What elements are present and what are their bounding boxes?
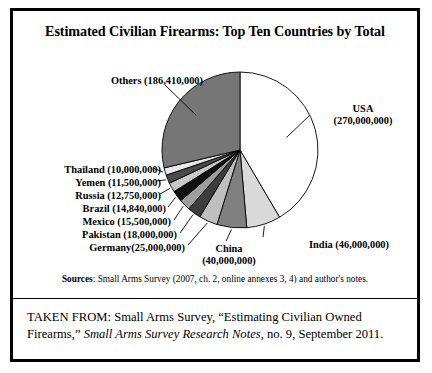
sources-label: Sources	[62, 274, 93, 284]
pie-label-brazil: Brazil (14,840,000)	[13, 203, 166, 215]
pie-label-yemen: Yemen (11,500,000)	[13, 177, 161, 189]
pie-label-china-line2: (40,000,000)	[202, 255, 256, 266]
pie-label-germany: Germany(25,000,000)	[13, 242, 185, 254]
sources-text: : Small Arms Survey (2007, ch. 2, online…	[93, 274, 368, 284]
pie-label-pakistan: Pakistan (18,000,000)	[13, 229, 177, 241]
pie-label-others: Others (186,410,000)	[23, 75, 203, 87]
leader-line-russia	[160, 188, 170, 194]
attribution-footer: TAKEN FROM: Small Arms Survey, “Estimati…	[13, 301, 417, 343]
pie-label-usa: USA (270,000,000)	[313, 103, 413, 126]
footer-publication-title: Small Arms Survey Research Notes	[84, 327, 261, 341]
pie-label-thailand: Thailand (10,000,000)	[13, 164, 161, 176]
pie-label-russia: Russia (12,750,000)	[13, 190, 161, 202]
pie-label-usa-line2: (270,000,000)	[334, 115, 393, 126]
footer-text-part2: , no. 9, September 2011.	[261, 327, 384, 341]
pie-label-mexico: Mexico (15,500,000)	[13, 216, 171, 228]
chart-panel: Estimated Civilian Firearms: Top Ten Cou…	[13, 11, 417, 299]
figure-container: Estimated Civilian Firearms: Top Ten Cou…	[10, 8, 420, 362]
leader-line-mexico	[174, 206, 183, 220]
pie-label-china: China (40,000,000)	[189, 243, 269, 266]
leader-line-germany	[188, 223, 207, 245]
pie-slice-group	[162, 72, 318, 228]
leader-line-brazil	[168, 197, 176, 207]
pie-label-china-line1: China	[215, 243, 242, 254]
leader-line-china	[226, 230, 232, 241]
sources-note: Sources: Small Arms Survey (2007, ch. 2,…	[13, 273, 417, 285]
leader-line-india	[263, 226, 264, 237]
pie-label-usa-line1: USA	[353, 103, 374, 114]
leader-line-pakistan	[180, 215, 193, 233]
pie-label-india: India (46,000,000)	[259, 239, 389, 251]
